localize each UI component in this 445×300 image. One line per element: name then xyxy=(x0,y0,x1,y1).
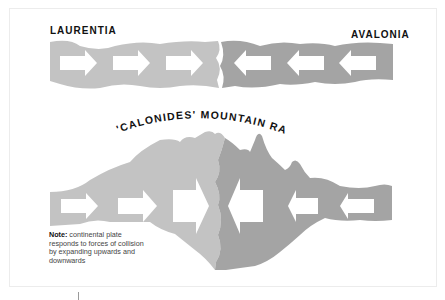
note-text: Note: continental plate responds to forc… xyxy=(49,231,149,265)
footer-divider xyxy=(78,292,79,300)
